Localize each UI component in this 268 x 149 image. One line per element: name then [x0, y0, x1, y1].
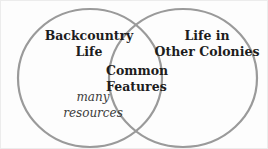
- overlap-label-line1: Common: [106, 63, 166, 79]
- right-circle-label-line1: Life in: [152, 28, 262, 44]
- left-circle-label-line1: Backcountry: [34, 28, 144, 44]
- right-circle-label: Life in Other Colonies: [152, 28, 262, 60]
- venn-diagram: Backcountry Life Life in Other Colonies …: [0, 0, 268, 149]
- right-circle-label-line2: Other Colonies: [152, 44, 262, 60]
- left-circle-note: many resources: [48, 89, 138, 121]
- left-circle-note-line1: many: [48, 89, 138, 105]
- left-circle-note-line2: resources: [48, 105, 138, 121]
- left-circle-label-line2: Life: [34, 44, 144, 60]
- left-circle-label: Backcountry Life: [34, 28, 144, 60]
